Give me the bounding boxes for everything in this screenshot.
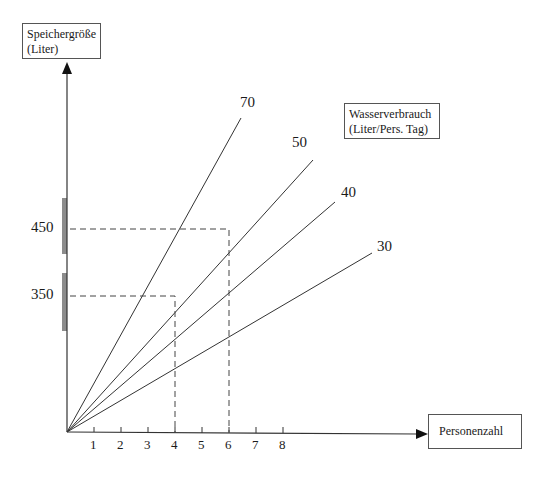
y-axis-label-line2: (Liter) xyxy=(27,42,96,57)
legend-title-line1: Wasserverbrauch xyxy=(349,107,435,122)
x-tick-6: 6 xyxy=(225,437,232,453)
x-axis xyxy=(67,432,418,434)
x-tick-3: 3 xyxy=(144,437,151,453)
x-tick-5: 5 xyxy=(198,437,205,453)
y-axis-arrow-icon xyxy=(62,62,72,74)
y-tick-350: 350 xyxy=(31,286,54,303)
range-bar-350 xyxy=(62,273,67,331)
series-line-30 xyxy=(67,253,372,432)
y-tick-450: 450 xyxy=(31,219,54,236)
x-tick-7: 7 xyxy=(252,437,259,453)
x-tick-1: 1 xyxy=(90,437,97,453)
x-tick-8: 8 xyxy=(279,437,286,453)
y-axis-label-box: Speichergröße (Liter) xyxy=(22,23,101,59)
legend-title-line2: (Liter/Pers. Tag) xyxy=(349,122,435,137)
y-axis-label-line1: Speichergröße xyxy=(27,27,96,42)
series-line-70 xyxy=(67,118,241,432)
series-label-70: 70 xyxy=(240,94,255,111)
x-tick-2: 2 xyxy=(117,437,124,453)
series-label-40: 40 xyxy=(341,184,356,201)
series-label-30: 30 xyxy=(377,238,392,255)
legend-box: Wasserverbrauch (Liter/Pers. Tag) xyxy=(344,103,440,139)
diagram-canvas xyxy=(0,0,549,479)
x-axis-label-box: Personenzahl xyxy=(428,414,522,449)
x-axis-arrow-icon xyxy=(416,429,428,439)
guide-lines xyxy=(70,229,229,432)
x-tick-4: 4 xyxy=(171,437,178,453)
range-bar-450 xyxy=(62,198,67,254)
x-axis-label: Personenzahl xyxy=(439,424,503,438)
series-line-40 xyxy=(67,202,335,432)
series-label-50: 50 xyxy=(292,134,307,151)
